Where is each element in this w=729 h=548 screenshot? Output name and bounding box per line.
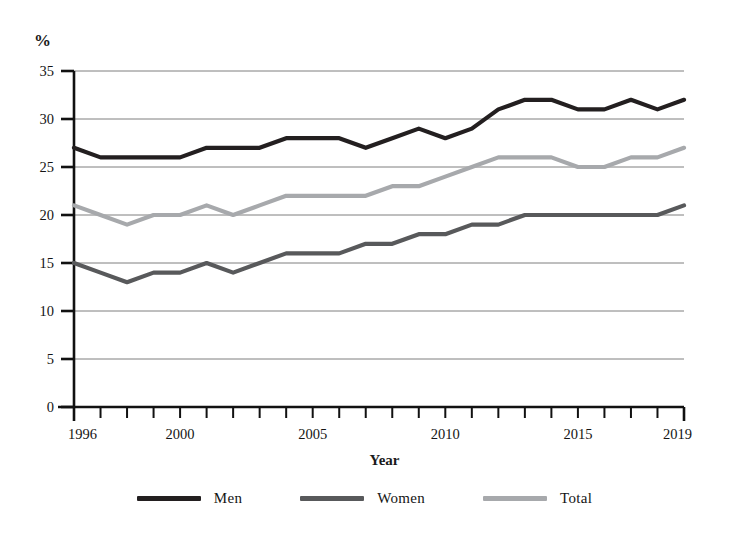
y-tick-label-0: 0 bbox=[47, 399, 54, 415]
y-tick-label-5: 5 bbox=[47, 351, 54, 367]
x-axis-title: Year bbox=[0, 452, 729, 469]
legend-label-total: Total bbox=[560, 490, 592, 507]
legend-swatch-men bbox=[137, 496, 201, 501]
data-series-lines bbox=[74, 100, 684, 282]
x-axis-tick-labels: 199620002005201020152019 bbox=[68, 426, 692, 442]
legend-entry-men[interactable]: Men bbox=[137, 490, 242, 507]
x-axis-ticks bbox=[74, 407, 684, 421]
y-tick-label-10: 10 bbox=[40, 303, 55, 319]
legend-entry-women[interactable]: Women bbox=[300, 490, 425, 507]
chart-legend: MenWomenTotal bbox=[0, 490, 729, 507]
line-chart: % 05101520253035 19962000200520102015201… bbox=[0, 0, 729, 548]
legend-label-women: Women bbox=[377, 490, 425, 507]
y-tick-label-35: 35 bbox=[40, 63, 55, 79]
x-tick-label-2015: 2015 bbox=[563, 426, 592, 442]
x-tick-label-2010: 2010 bbox=[431, 426, 460, 442]
y-tick-label-15: 15 bbox=[40, 255, 55, 271]
y-axis-ticks bbox=[61, 71, 74, 407]
x-tick-label-2019: 2019 bbox=[663, 426, 692, 442]
y-axis-tick-labels: 05101520253035 bbox=[40, 63, 55, 415]
y-tick-label-20: 20 bbox=[40, 207, 55, 223]
y-tick-label-30: 30 bbox=[40, 111, 55, 127]
x-axis-title-text: Year bbox=[370, 452, 400, 469]
legend-swatch-women bbox=[300, 496, 364, 501]
legend-entry-total[interactable]: Total bbox=[483, 490, 592, 507]
y-tick-label-25: 25 bbox=[40, 159, 55, 175]
x-tick-label-2005: 2005 bbox=[298, 426, 327, 442]
x-tick-label-1996: 1996 bbox=[68, 426, 97, 442]
series-line-men bbox=[74, 100, 684, 158]
x-tick-label-2000: 2000 bbox=[166, 426, 195, 442]
legend-label-men: Men bbox=[214, 490, 242, 507]
legend-swatch-total bbox=[483, 496, 547, 501]
